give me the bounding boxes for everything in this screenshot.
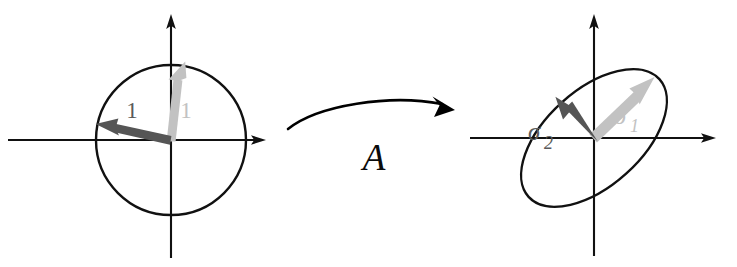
vector-v2-shaft (113, 123, 172, 144)
label-sigma2-subscript: 2 (544, 133, 553, 153)
vector-sigma2 (555, 97, 597, 141)
label-v2-one: 1 (126, 98, 138, 123)
label-v1-one: 1 (180, 98, 192, 123)
unit-circle-panel: 1 1 (8, 14, 266, 258)
transformation-arrow-head (433, 97, 456, 118)
label-sigma2: σ 2 (528, 118, 553, 153)
transformation-arrow: A (288, 97, 455, 179)
label-sigma2-symbol: σ (528, 118, 542, 145)
transformation-arrow-curve (288, 100, 442, 129)
transformation-arrow-label: A (360, 137, 386, 178)
label-sigma1-subscript: 1 (630, 116, 639, 136)
svd-geometry-figure: 1 1 A σ (0, 0, 737, 267)
ellipse-panel: σ 2 σ 1 (470, 14, 716, 256)
label-sigma1-symbol: σ (614, 102, 628, 129)
